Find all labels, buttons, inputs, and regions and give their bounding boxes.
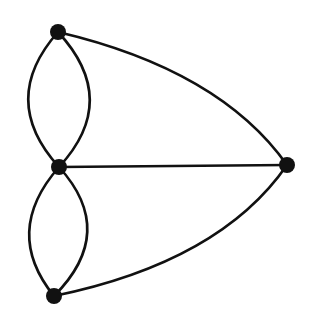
edge-a-d [58, 32, 287, 165]
edge-c-d [54, 165, 287, 296]
edge-a-b-right [58, 32, 90, 167]
edge-b-c-left [29, 167, 59, 296]
node-a [50, 24, 66, 40]
edge-b-c-right [54, 167, 87, 296]
edge-b-d [59, 165, 287, 167]
graph-svg [0, 0, 313, 332]
graph-diagram [0, 0, 313, 332]
edge-a-b-left [28, 32, 59, 167]
node-b [51, 159, 67, 175]
node-c [46, 288, 62, 304]
node-d [279, 157, 295, 173]
